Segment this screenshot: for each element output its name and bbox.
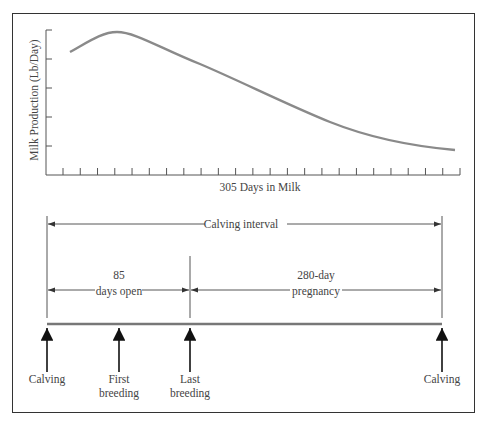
timeline-guides	[47, 216, 442, 318]
event-calving-start: Calving	[17, 372, 77, 386]
chart-axes	[46, 30, 460, 175]
pregnancy-label: pregnancy	[284, 284, 348, 298]
calving-interval-label: Calving interval	[196, 217, 286, 231]
y-axis-label: Milk Production (Lb/Day)	[28, 39, 40, 160]
pregnancy-value: 280-day	[288, 268, 344, 282]
event-last-breeding: Last breeding	[160, 372, 220, 400]
x-axis-label: 305 Days in Milk	[210, 180, 310, 194]
days-open-value: 85	[94, 268, 144, 282]
lactation-curve	[70, 32, 455, 150]
lactation-diagram	[0, 0, 482, 425]
event-arrows	[47, 328, 442, 372]
event-first-breeding: First breeding	[89, 372, 149, 400]
event-calving-end: Calving	[412, 372, 472, 386]
days-open-label: days open	[89, 284, 149, 298]
